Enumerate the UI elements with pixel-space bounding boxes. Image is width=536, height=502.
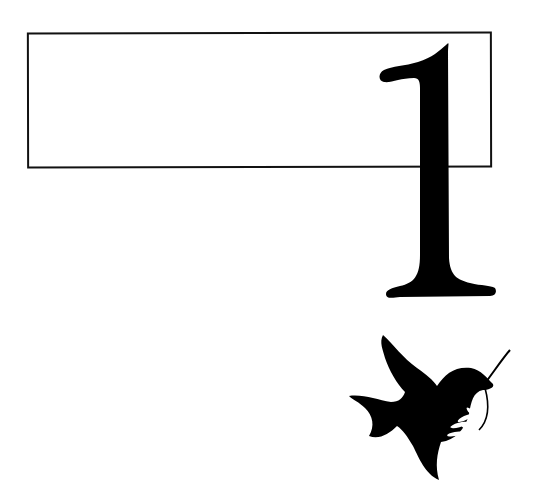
dove-with-olive-branch-icon (345, 330, 515, 485)
chapter-number-one: 1 (370, 40, 510, 305)
